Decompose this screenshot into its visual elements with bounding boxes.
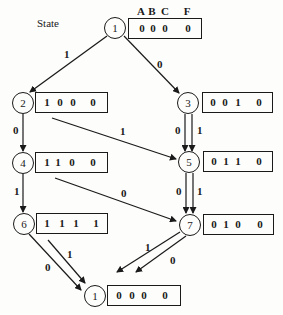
output-box-state-3: 0 0 1 0 <box>202 92 273 113</box>
edge-label-5-7-right: 1 <box>197 185 203 197</box>
edge-7-1-b <box>136 236 186 272</box>
output-box-state-2: 1 0 0 0 <box>35 92 108 113</box>
bit-c: 0 <box>67 156 77 168</box>
state-node-1-bottom: 1 <box>84 285 106 307</box>
bit-a: 1 <box>42 217 52 229</box>
edge-label-7-1-one: 1 <box>145 241 151 253</box>
bit-f: 0 <box>254 155 264 167</box>
edge-label-7-1-zero: 0 <box>170 254 176 266</box>
edge-label-5-7-left: 0 <box>176 185 182 197</box>
bit-f: 1 <box>91 217 101 229</box>
edge-label-4-6: 1 <box>14 185 20 197</box>
edge-label-3-5-right: 1 <box>197 124 203 136</box>
bit-c: 1 <box>233 96 243 108</box>
bit-b: 0 <box>55 96 65 108</box>
bit-f: 0 <box>88 96 98 108</box>
bit-b: 0 <box>148 22 158 34</box>
bit-a: 0 <box>114 289 124 301</box>
bit-f: 0 <box>160 289 170 301</box>
state-node-2: 2 <box>12 92 34 114</box>
column-header-b: B <box>147 5 157 17</box>
bit-b: 1 <box>53 156 63 168</box>
edge-label-4-7: 0 <box>121 187 127 199</box>
edge-1-3 <box>124 36 179 93</box>
bit-a: 1 <box>42 96 52 108</box>
state-node-6: 6 <box>13 213 35 235</box>
edge-label-1-2: 1 <box>64 48 70 60</box>
bit-c: 1 <box>233 155 243 167</box>
edge-label-3-5-left: 0 <box>175 124 181 136</box>
state-node-7: 7 <box>179 214 201 236</box>
bit-c: 1 <box>71 217 81 229</box>
bit-b: 0 <box>220 96 230 108</box>
column-header-a: A <box>136 5 146 17</box>
state-node-4: 4 <box>12 152 34 174</box>
edge-6-1-b <box>48 240 85 283</box>
state-diagram: State A B C F 1 0 0 0 0 2 1 0 0 0 3 0 0 … <box>0 0 283 315</box>
edge-label-6-1-zero: 0 <box>45 261 51 273</box>
bit-a: 0 <box>208 96 218 108</box>
bit-f: 0 <box>254 96 264 108</box>
edge-label-6-1-one: 1 <box>67 248 73 260</box>
bit-c: 0 <box>68 96 78 108</box>
bit-f: 0 <box>88 156 98 168</box>
state-column-label: State <box>37 17 59 29</box>
bit-b: 1 <box>57 217 67 229</box>
bit-f: 0 <box>255 218 265 230</box>
bit-c: 0 <box>139 289 149 301</box>
output-box-state-4: 1 1 0 0 <box>35 152 108 173</box>
output-box-state-5: 0 1 1 0 <box>203 151 273 172</box>
edge-label-2-4: 0 <box>13 124 19 136</box>
state-node-1-top: 1 <box>104 17 126 39</box>
bit-a: 0 <box>209 155 219 167</box>
column-header-c: C <box>160 5 170 17</box>
bit-b: 1 <box>221 218 231 230</box>
bit-a: 0 <box>137 22 147 34</box>
edge-label-2-5: 1 <box>120 125 126 137</box>
bit-c: 0 <box>233 218 243 230</box>
edge-1-2 <box>30 36 107 92</box>
bit-a: 1 <box>42 156 52 168</box>
state-node-5: 5 <box>178 151 200 173</box>
output-box-state-1-top: 0 0 0 0 <box>128 18 202 39</box>
edge-label-1-3: 0 <box>157 58 163 70</box>
bit-a: 0 <box>209 218 219 230</box>
output-box-state-7: 0 1 0 0 <box>203 214 274 235</box>
bit-b: 0 <box>127 289 137 301</box>
output-box-state-1-bottom: 0 0 0 0 <box>107 285 181 306</box>
column-header-f: F <box>182 5 192 17</box>
bit-b: 1 <box>221 155 231 167</box>
state-node-3: 3 <box>177 92 199 114</box>
edge-6-1-a <box>29 234 81 290</box>
bit-c: 0 <box>160 22 170 34</box>
bit-f: 0 <box>183 22 193 34</box>
output-box-state-6: 1 1 1 1 <box>36 213 108 234</box>
